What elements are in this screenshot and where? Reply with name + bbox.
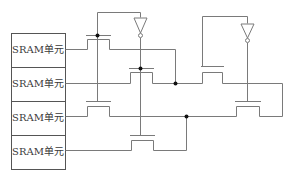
wire-row-2 — [66, 73, 283, 117]
select-line-s0 — [98, 13, 141, 102]
junction-node-t2 — [139, 67, 143, 71]
inverter-1-icon — [134, 18, 147, 33]
junction-node-t1 — [96, 34, 100, 38]
sram-cell-3-label: SRAM单元 — [12, 112, 64, 123]
wire-row-4 — [66, 117, 187, 151]
inverter-2-bubble — [246, 39, 250, 43]
junction-node-row1-row2 — [174, 82, 178, 86]
sram-cell-1-label: SRAM单元 — [12, 44, 64, 55]
wire-row-1 — [66, 40, 176, 84]
wire-row-3 — [66, 107, 283, 117]
inverter-1-bubble — [139, 34, 143, 38]
inverter-2-icon — [241, 24, 254, 38]
sram-cell-4-label: SRAM单元 — [12, 146, 64, 157]
sram-cell-2-label: SRAM单元 — [12, 78, 64, 89]
junction-node-row3-row4 — [185, 115, 189, 119]
sram-mux-circuit: SRAM单元 SRAM单元 SRAM单元 SRAM单元 — [0, 0, 296, 178]
